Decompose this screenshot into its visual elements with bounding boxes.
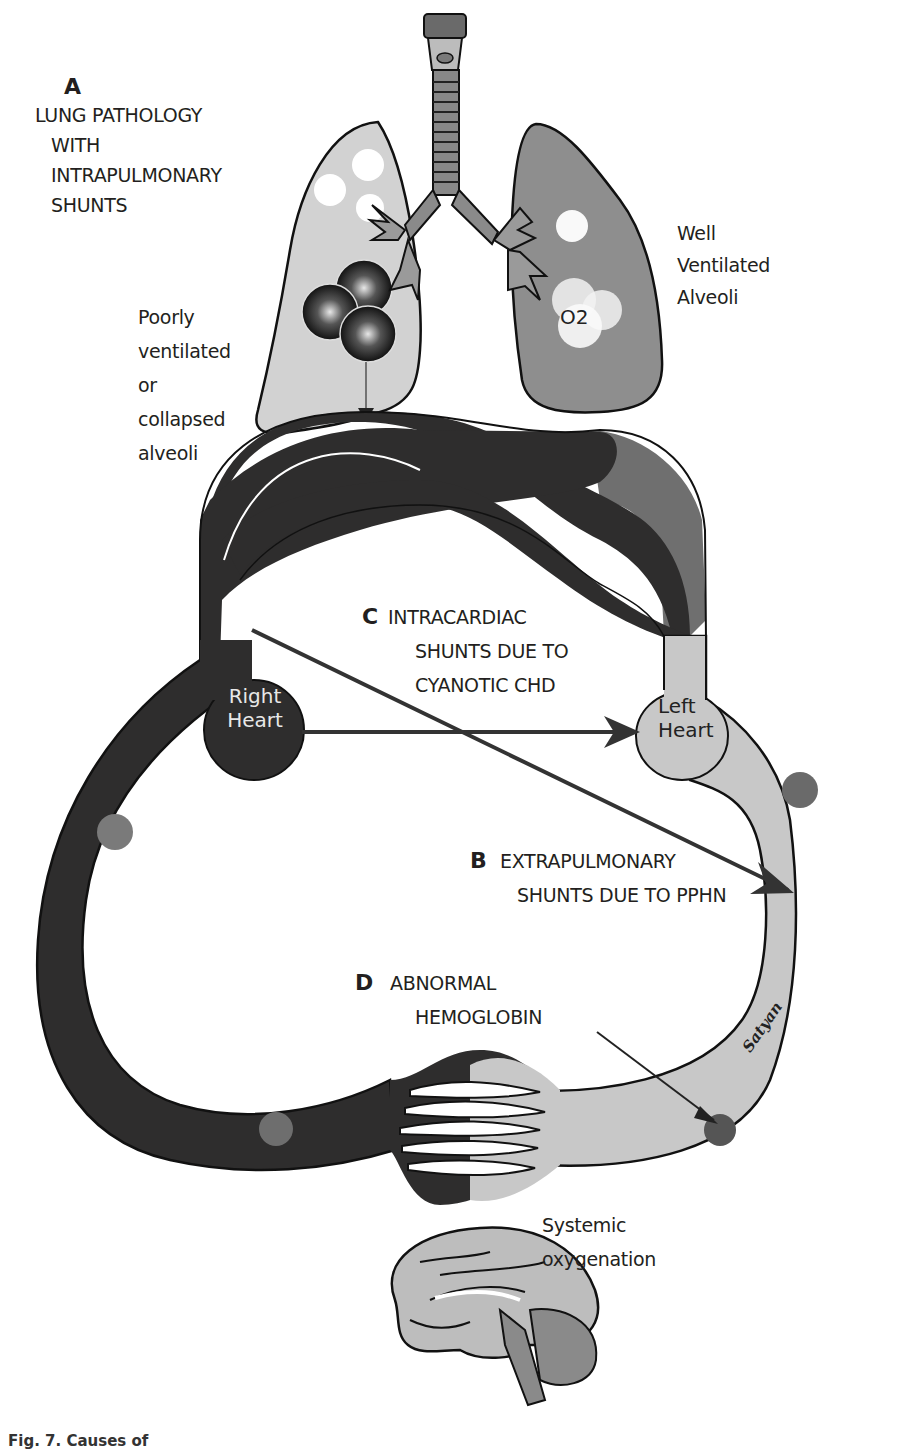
label-d-letter: D <box>355 970 373 996</box>
label-d-line2: HEMOGLOBIN <box>415 1006 542 1029</box>
label-a-letter: A <box>64 74 81 100</box>
label-a-line2: WITH <box>51 134 100 157</box>
well-ventilated-line3: Alveoli <box>677 286 738 309</box>
right-heart-line1: Right <box>212 684 298 708</box>
left-heart-label: Left Heart <box>658 694 728 742</box>
label-b-letter: B <box>470 848 487 874</box>
right-heart-line2: Heart <box>212 708 298 732</box>
systemic-line1: Systemic <box>542 1214 626 1237</box>
label-c-line2: SHUNTS DUE TO <box>415 640 568 663</box>
left-heart-line2: Heart <box>658 718 728 742</box>
label-c-letter: C <box>362 604 378 630</box>
red-cell <box>782 772 818 808</box>
red-cell <box>259 1112 293 1146</box>
red-cell <box>97 814 133 850</box>
label-a-line1: LUNG PATHOLOGY <box>35 104 202 127</box>
figure-caption: Fig. 7. Causes of <box>8 1432 148 1450</box>
label-c-line3: CYANOTIC CHD <box>415 674 555 697</box>
label-b-line2: SHUNTS DUE TO PPHN <box>517 884 726 907</box>
label-b-line1: EXTRAPULMONARY <box>500 850 676 873</box>
poorly-ventilated-line4: collapsed <box>138 408 225 431</box>
label-a-line4: SHUNTS <box>51 194 127 217</box>
systemic-line2: oxygenation <box>542 1248 656 1271</box>
well-ventilated-line1: Well <box>677 222 716 245</box>
label-a-line3: INTRAPULMONARY <box>51 164 222 187</box>
o2-label: O2 <box>560 305 588 329</box>
well-ventilated-line2: Ventilated <box>677 254 770 277</box>
label-d-line1: ABNORMAL <box>390 972 496 995</box>
label-c-line1: INTRACARDIAC <box>388 606 527 629</box>
poorly-ventilated-line2: ventilated <box>138 340 231 363</box>
collapsed-alveolus <box>340 306 396 362</box>
poorly-ventilated-line5: alveoli <box>138 442 198 465</box>
poorly-ventilated-line3: or <box>138 374 157 397</box>
left-heart-line1: Left <box>658 694 728 718</box>
poorly-ventilated-line1: Poorly <box>138 306 195 329</box>
right-heart-label: Right Heart <box>212 684 298 732</box>
